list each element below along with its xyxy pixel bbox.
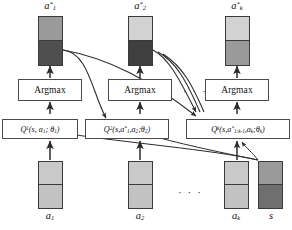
input-box-a1-top (39, 162, 62, 185)
output-box-a2-star-top (129, 17, 152, 41)
state-box-s-top (259, 162, 282, 185)
output-box-ak-star (225, 16, 250, 66)
input-box-a2 (128, 161, 153, 209)
label-a1-star: a*1 (34, 0, 66, 11)
argmax-box-2[interactable]: Argmax (108, 79, 172, 101)
q-function-box-1[interactable]: Q1(s, a1; θ1) (2, 119, 78, 139)
output-box-ak-star-top (226, 17, 249, 41)
label-ak-star: a*k (221, 0, 253, 11)
input-box-a2-bottom (129, 185, 152, 208)
input-box-ak (224, 161, 249, 209)
ellipsis-bottom-row: · · · (178, 186, 203, 198)
q-function-box-2[interactable]: Q2(s,a*1,a2;θ2) (85, 119, 169, 139)
label-a1: a1 (34, 210, 66, 221)
output-box-a2-star (128, 16, 153, 66)
argmax-box-k[interactable]: Argmax (205, 79, 269, 101)
label-a2-star: a*2 (124, 0, 156, 11)
output-box-a1-star (38, 16, 63, 66)
output-box-a1-star-top (39, 17, 62, 41)
input-box-a2-top (129, 162, 152, 185)
state-box-s (258, 161, 283, 209)
input-box-a1 (38, 161, 63, 209)
label-s: s (256, 210, 286, 221)
input-box-a1-bottom (39, 185, 62, 208)
figure-canvas: a*1 a*2 a*k Argmax Argmax Argmax · · · Q… (0, 0, 292, 230)
q1-text: Q1(s, a1; θ1) (20, 125, 59, 134)
state-box-s-bottom (259, 185, 282, 208)
output-box-ak-star-bottom (226, 41, 249, 65)
qk-text: Qk(s,a*1:k-1,ak;θk) (211, 125, 265, 134)
label-a2: a2 (124, 210, 156, 221)
input-box-ak-top (225, 162, 248, 185)
input-box-ak-bottom (225, 185, 248, 208)
output-box-a1-star-bottom (39, 41, 62, 65)
q2-text: Q2(s,a*1,a2;θ2) (104, 125, 150, 134)
label-ak: ak (220, 210, 252, 221)
output-box-a2-star-bottom (129, 41, 152, 65)
argmax-box-1[interactable]: Argmax (18, 79, 82, 101)
ellipsis-top-row: · · · (183, 85, 208, 97)
q-function-box-k[interactable]: Qk(s,a*1:k-1,ak;θk) (186, 119, 290, 139)
